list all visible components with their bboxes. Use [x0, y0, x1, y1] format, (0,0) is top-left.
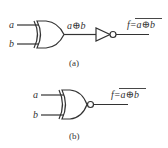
caption-a: (a)	[69, 58, 79, 68]
output-bubble	[88, 102, 94, 108]
caption-b: (b)	[69, 131, 80, 141]
output-prefix: f=	[127, 19, 137, 30]
logic-diagram: a b a⊕b f=a⊕b (a) a b	[0, 0, 168, 148]
input-a-label: a	[9, 19, 14, 30]
inverter-triangle	[96, 28, 110, 41]
output-label-a: f=a⊕b	[127, 19, 155, 30]
input-a-label: a	[33, 89, 38, 100]
output-expr: a⊕b	[137, 19, 155, 30]
output-prefix: f=	[111, 89, 121, 100]
input-b-label: b	[33, 109, 38, 120]
output-label-b: f=a⊕b	[111, 89, 139, 100]
intermediate-label: a⊕b	[67, 20, 85, 31]
or-body	[37, 21, 64, 48]
input-b-label: b	[9, 38, 14, 49]
or-body	[62, 90, 87, 119]
diagram-a: a b a⊕b f=a⊕b (a)	[9, 19, 162, 69]
diagram-b: a b f=a⊕b (b)	[33, 89, 146, 142]
inverter-bubble	[110, 32, 116, 38]
output-expr: a⊕b	[121, 89, 139, 100]
xor-gate-icon	[34, 21, 64, 48]
not-gate-icon	[96, 28, 116, 41]
xnor-gate-icon	[59, 90, 94, 119]
